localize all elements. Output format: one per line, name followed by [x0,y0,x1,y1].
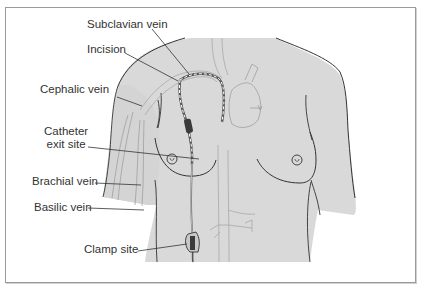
label-basilic-vein: Basilic vein [34,201,92,214]
label-cephalic-vein: Cephalic vein [40,83,109,96]
label-catheter-exit-line1: Catheter [44,125,88,138]
label-incision: Incision [87,43,126,56]
label-brachial-vein: Brachial vein [32,175,98,188]
leader-basilic [88,208,144,210]
label-catheter-exit-site: Catheter exit site [44,125,88,151]
label-clamp-site: Clamp site [84,243,138,256]
label-subclavian-vein: Subclavian vein [87,18,168,31]
label-catheter-exit-line2: exit site [44,138,88,151]
